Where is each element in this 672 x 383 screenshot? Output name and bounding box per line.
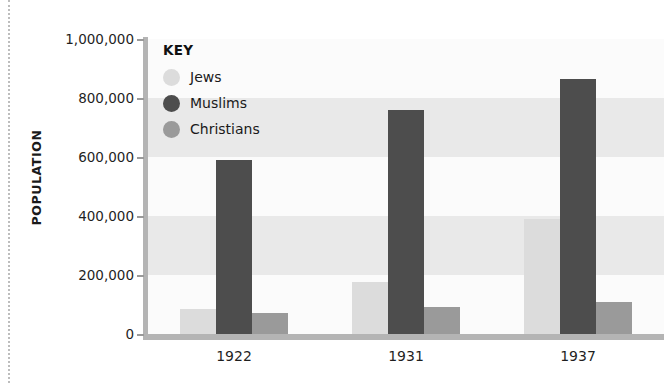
x-axis-tick-label: 1931	[388, 348, 424, 364]
y-axis-tick-label: 600,000	[24, 149, 134, 165]
chart-figure: POPULATION 1,000,000800,000600,000400,00…	[0, 0, 672, 383]
bar-muslims-1931	[388, 110, 424, 334]
y-axis-tick	[137, 275, 144, 277]
y-axis-tick-label: 0	[24, 326, 134, 342]
y-axis-tick-labels: 1,000,000800,000600,000400,000200,0000	[22, 0, 134, 383]
bar-christians-1922	[252, 313, 288, 334]
bar-jews-1922	[180, 309, 216, 334]
y-axis-tick	[137, 39, 144, 41]
legend-item-label: Jews	[190, 69, 222, 85]
legend-item-muslims: Muslims	[163, 90, 313, 116]
bar-muslims-1922	[216, 160, 252, 334]
y-axis-tick-label: 200,000	[24, 267, 134, 283]
x-axis-tick-label: 1937	[560, 348, 596, 364]
y-axis-tick	[137, 157, 144, 159]
legend-item-christians: Christians	[163, 116, 313, 142]
bar-jews-1931	[352, 282, 388, 334]
bar-muslims-1937	[560, 79, 596, 334]
legend: KEY JewsMuslimsChristians	[163, 42, 313, 142]
y-axis-tick-label: 1,000,000	[24, 31, 134, 47]
y-axis-tick	[137, 334, 144, 336]
y-axis-tick	[137, 216, 144, 218]
y-axis-tick	[137, 98, 144, 100]
y-axis-spine	[143, 37, 148, 337]
bar-christians-1937	[596, 302, 632, 334]
x-axis-spine	[143, 334, 664, 340]
legend-swatch-icon	[163, 121, 180, 138]
legend-item-label: Christians	[190, 121, 260, 137]
legend-swatch-icon	[163, 69, 180, 86]
legend-swatch-icon	[163, 95, 180, 112]
y-axis-tick-label: 800,000	[24, 90, 134, 106]
bar-christians-1931	[424, 307, 460, 334]
legend-item-jews: Jews	[163, 64, 313, 90]
x-axis-tick-label: 1922	[216, 348, 252, 364]
legend-title: KEY	[163, 42, 313, 58]
legend-item-label: Muslims	[190, 95, 247, 111]
y-axis-tick-label: 400,000	[24, 208, 134, 224]
x-axis-tick-labels: 192219311937	[148, 348, 664, 376]
legend-rows: JewsMuslimsChristians	[163, 64, 313, 142]
bar-jews-1937	[524, 219, 560, 334]
left-dotted-rule	[8, 0, 10, 383]
